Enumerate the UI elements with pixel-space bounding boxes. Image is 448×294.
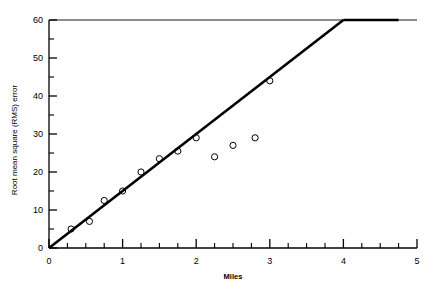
data-point <box>212 154 218 160</box>
fitted-line <box>49 20 399 248</box>
y-tick-label: 40 <box>33 91 43 101</box>
data-point <box>86 218 92 224</box>
y-axis <box>49 20 57 248</box>
chart-figure: 0102030405060 012345 Root mean square (R… <box>0 0 448 294</box>
x-tick-label: 2 <box>194 256 199 266</box>
y-tick-label: 0 <box>38 243 43 253</box>
x-axis-tick-labels: 012345 <box>46 256 419 266</box>
x-axis <box>49 239 417 248</box>
y-axis-title: Root mean square (RMS) error <box>10 85 19 196</box>
x-tick-label: 5 <box>414 256 419 266</box>
y-tick-label: 30 <box>33 129 43 139</box>
y-tick-label: 60 <box>33 15 43 25</box>
x-tick-label: 0 <box>46 256 51 266</box>
data-point <box>138 169 144 175</box>
x-axis-title: Miles <box>224 272 243 281</box>
data-point <box>101 197 107 203</box>
y-tick-label: 20 <box>33 167 43 177</box>
y-axis-tick-labels: 0102030405060 <box>33 15 43 253</box>
scatter-plot-canvas: 0102030405060 012345 Root mean square (R… <box>0 0 448 294</box>
y-tick-label: 50 <box>33 53 43 63</box>
data-point <box>230 142 236 148</box>
x-tick-label: 4 <box>341 256 346 266</box>
x-tick-label: 3 <box>267 256 272 266</box>
data-point <box>252 135 258 141</box>
x-tick-label: 1 <box>120 256 125 266</box>
y-tick-label: 10 <box>33 205 43 215</box>
